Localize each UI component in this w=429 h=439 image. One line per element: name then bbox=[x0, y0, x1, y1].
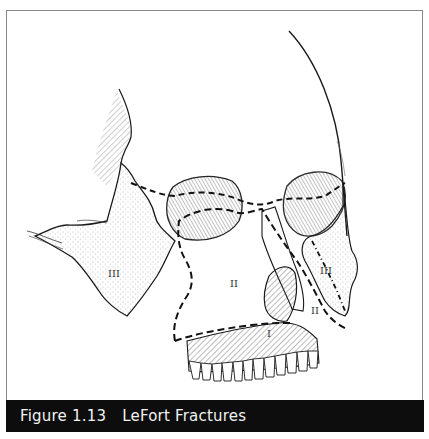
label-center-ii: II bbox=[230, 278, 238, 289]
left-zygoma bbox=[35, 163, 175, 316]
label-right-iii: III bbox=[320, 265, 332, 276]
figure-number: Figure 1.13 bbox=[20, 407, 106, 425]
lefort-skull-illustration: III II III II I bbox=[7, 11, 424, 401]
label-left-iii: III bbox=[108, 268, 120, 279]
nasal-aperture bbox=[264, 267, 296, 322]
label-maxilla-i: I bbox=[267, 328, 271, 339]
figure-frame: III II III II I bbox=[6, 10, 423, 400]
figure-title: LeFort Fractures bbox=[122, 407, 246, 425]
figure-caption-bar: Figure 1.13 LeFort Fractures bbox=[6, 400, 424, 432]
label-right-ii: II bbox=[311, 305, 319, 316]
